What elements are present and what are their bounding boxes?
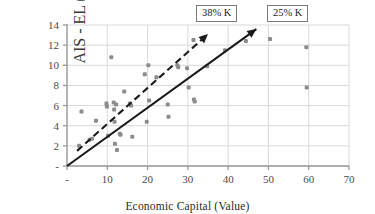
- callout-38-text: 38% K: [202, 7, 231, 18]
- scatter-point: [244, 39, 248, 43]
- scatter-point: [109, 55, 113, 59]
- callout-25-text: 25% K: [273, 7, 302, 18]
- scatter-point: [122, 89, 126, 93]
- scatter-point: [113, 142, 117, 146]
- scatter-point: [143, 72, 147, 76]
- scatter-point: [105, 105, 109, 109]
- y-tick-label: -: [30, 160, 59, 172]
- trend-arrowhead: [198, 34, 208, 43]
- trend-line-dashed: [77, 34, 208, 151]
- callout-25-percent: 25% K: [267, 5, 308, 22]
- y-tick-label: 10: [30, 59, 59, 71]
- x-tick-label: 30: [182, 173, 193, 185]
- scatter-chart: AIS - EL (Value) Economic Capital (Value…: [0, 0, 375, 214]
- scatter-point: [167, 115, 171, 119]
- scatter-point: [187, 85, 191, 89]
- x-tick-label: 20: [142, 173, 153, 185]
- scatter-point: [166, 103, 170, 107]
- scatter-point: [154, 75, 158, 79]
- scatter-point: [193, 100, 197, 104]
- callout-38-percent: 38% K: [196, 5, 237, 22]
- y-tick-label: 12: [30, 39, 59, 51]
- scatter-point: [114, 103, 118, 107]
- scatter-point: [145, 120, 149, 124]
- y-axis-title-text: AIS - EL (Value): [71, 0, 89, 64]
- scatter-point: [305, 85, 309, 89]
- scatter-point: [130, 135, 134, 139]
- scatter-point: [191, 38, 195, 42]
- y-tick-label: 6: [30, 100, 59, 112]
- scatter-point: [80, 110, 84, 114]
- y-tick-label: 2: [30, 140, 59, 152]
- scatter-point: [268, 37, 272, 41]
- x-tick-label: 40: [223, 173, 234, 185]
- trend-arrowhead: [247, 29, 257, 38]
- x-tick-label: 60: [303, 173, 314, 185]
- scatter-point: [119, 133, 123, 137]
- scatter-point: [112, 108, 116, 112]
- x-tick-label: 10: [102, 173, 113, 185]
- y-tick-label: 8: [30, 79, 59, 91]
- x-tick-label: 50: [263, 173, 274, 185]
- y-tick-label: 4: [30, 120, 59, 132]
- scatter-point: [185, 66, 189, 70]
- scatter-point: [147, 99, 151, 103]
- y-axis-title: AIS - EL (Value): [71, 0, 89, 89]
- x-axis-title-text: Economic Capital (Value): [125, 200, 249, 212]
- x-axis-title: Economic Capital (Value): [0, 200, 375, 212]
- x-tick-label: 70: [344, 173, 355, 185]
- scatter-point: [176, 65, 180, 69]
- x-tick-label: -: [65, 173, 69, 185]
- scatter-point: [113, 120, 117, 124]
- scatter-point: [115, 148, 119, 152]
- scatter-point: [94, 119, 98, 123]
- scatter-point: [146, 63, 150, 67]
- scatter-point: [304, 45, 308, 49]
- y-tick-label: 14: [30, 19, 59, 31]
